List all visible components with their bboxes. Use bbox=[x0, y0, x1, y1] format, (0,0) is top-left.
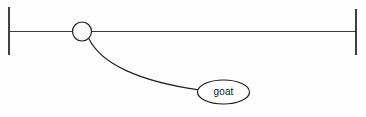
diagram-canvas: goat bbox=[0, 0, 366, 117]
circle-node[interactable] bbox=[73, 22, 92, 41]
goat-label-text: goat bbox=[214, 86, 234, 97]
diagram-svg: goat bbox=[0, 0, 366, 117]
association-curve bbox=[89, 39, 199, 90]
